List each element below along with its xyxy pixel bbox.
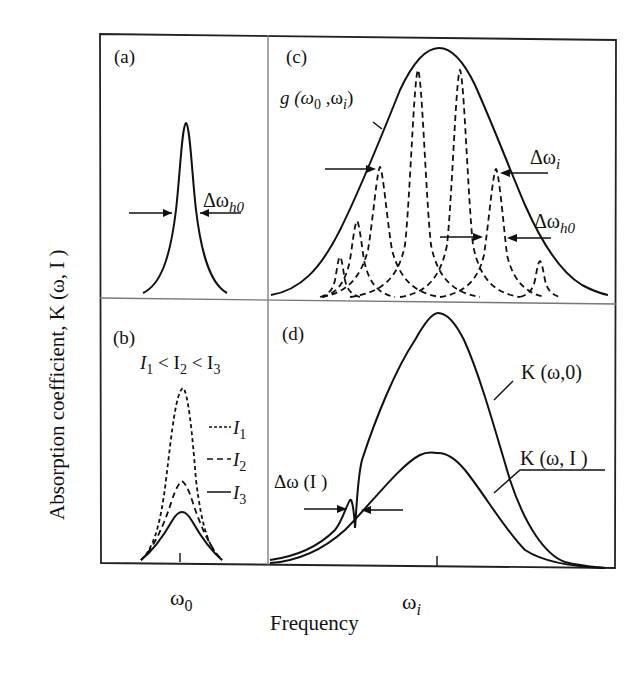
intensity-relation: I1 < I2 < I3 [139,352,220,377]
envelope-label: g (ω0 ,ωi) [280,87,353,112]
panel-a: (a) Δωh0 [114,46,245,293]
svg-text:I3: I3 [232,482,246,507]
legend-I1: I1 [209,417,246,442]
absorption-figure: (a) Δωh0 (b) I1 < I2 < I3 I1 I2 [0,0,643,674]
panel-divider-horizontal [100,298,616,304]
homogeneous-packet-2 [322,221,395,297]
svg-text:I1: I1 [232,417,246,442]
y-axis-label: Absorption coefficient, K (ω, I ) [45,249,69,520]
homogeneous-packet-1 [320,257,360,297]
homogeneous-packet-4 [350,70,480,297]
panel-a-label: (a) [114,46,135,68]
K-unsaturated-leader [494,381,513,400]
panel-b: (b) I1 < I2 < I3 I1 I2 I3 [113,327,246,562]
panel-d: (d) K (ω,0) K (ω, I ) Δω (I ) [270,313,605,568]
legend-I3: I3 [207,482,246,507]
delta-omega-h0-label: Δωh0 [203,189,245,215]
legend-I2: I2 [207,449,246,474]
panel-d-label: (d) [282,323,304,345]
width-arrow-left [129,209,172,217]
curve-I3 [141,512,222,560]
x-tick-omega-i: ωi [402,589,421,618]
hole-arrow-left [304,505,347,513]
homogeneous-packet-7 [520,261,560,297]
inhomog-width-arrow-left [325,165,376,173]
K-saturated-label: K (ω, I ) [520,447,588,470]
homog-width-arrow-left [440,233,483,241]
panel-c: (c) g (ω0 ,ωi) Δωi Δωh0 [271,46,608,297]
homog-width-arrow-right [507,234,551,242]
panel-c-label: (c) [286,46,307,68]
svg-text:I2: I2 [232,449,246,474]
curve-K-unsaturated [270,313,605,568]
x-axis-label: Frequency [270,611,359,635]
K-unsaturated-label: K (ω,0) [521,361,582,384]
panel-b-label: (b) [113,327,135,349]
hole-width-label: Δω (I ) [274,471,327,493]
delta-omega-i-label: Δωi [530,146,560,172]
delta-omega-h0-label-c: Δωh0 [534,210,576,236]
homogeneous-packet-6 [440,169,545,297]
x-tick-omega0: ω0 [170,585,192,614]
curve-I1 [141,388,222,560]
inhomog-width-arrow-right [500,169,548,177]
homogeneous-packet-5 [400,70,520,297]
envelope-leader-line [373,122,382,129]
